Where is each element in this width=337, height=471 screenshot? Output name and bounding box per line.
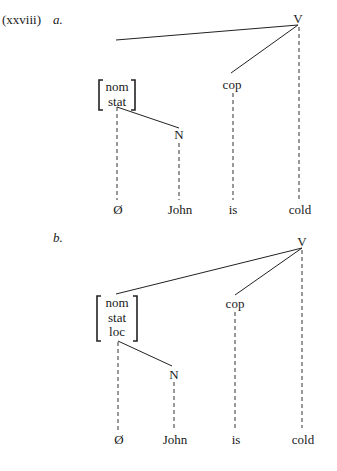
tree-b-leaf-is: is xyxy=(232,433,241,447)
tree-a-cop: cop xyxy=(223,78,242,92)
tree-b-leaf-cold: cold xyxy=(292,433,314,447)
tree-b-cop: cop xyxy=(226,297,245,311)
bracket-right-b xyxy=(133,296,137,341)
edge-v-to-cop-b xyxy=(235,248,302,295)
feature-stat: stat xyxy=(101,311,133,326)
tree-a-leaf-is: is xyxy=(229,203,238,217)
tree-lines xyxy=(0,0,337,471)
feature-stat: stat xyxy=(101,95,133,110)
tree-a-leaf-null: Ø xyxy=(113,203,122,217)
tree-a-leaf-john: John xyxy=(168,203,193,217)
tree-a-n: N xyxy=(174,128,183,142)
tree-b-feature-bundle: nom stat loc xyxy=(101,296,133,340)
tree-b-label: b. xyxy=(53,231,63,244)
tree-b-root-v: V xyxy=(297,235,306,249)
tree-b-leaf-null: Ø xyxy=(114,433,123,447)
tree-a-leaf-cold: cold xyxy=(289,203,311,217)
edge-bundle-to-n-a xyxy=(117,107,179,128)
edge-v-to-bundle-a xyxy=(116,25,298,40)
edge-v-to-cop-a xyxy=(231,25,298,73)
edge-bundle-to-n-b xyxy=(118,341,172,366)
feature-loc: loc xyxy=(101,325,133,340)
tree-a-root-v: V xyxy=(293,12,302,26)
tree-a-feature-bundle: nom stat xyxy=(101,80,133,109)
tree-a-label: a. xyxy=(53,13,63,26)
example-number: (xxviii) xyxy=(2,13,41,26)
tree-b-leaf-john: John xyxy=(163,433,188,447)
edge-v-to-bundle-b xyxy=(116,248,302,294)
feature-nom: nom xyxy=(101,296,133,311)
tree-b-n: N xyxy=(169,368,178,382)
feature-nom: nom xyxy=(101,80,133,95)
